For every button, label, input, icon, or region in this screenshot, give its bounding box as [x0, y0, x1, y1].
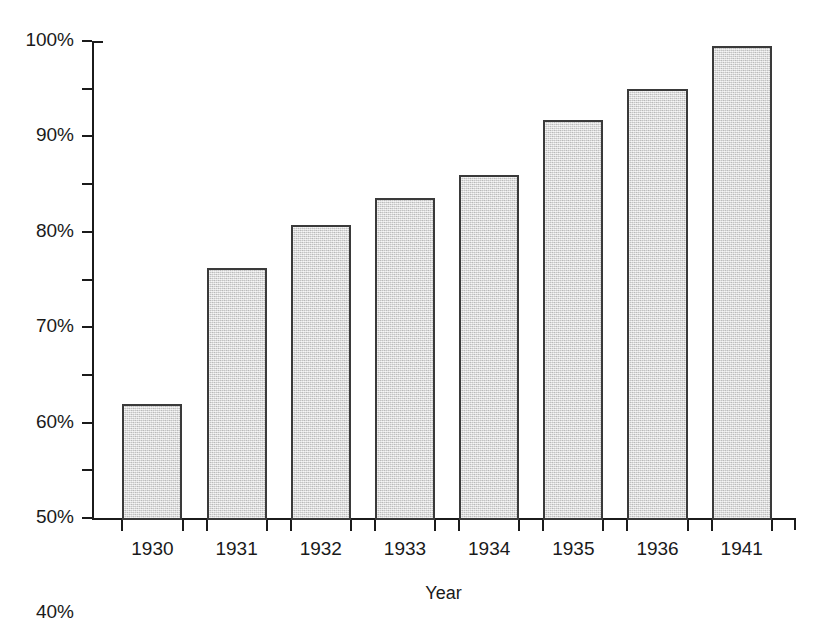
x-axis-tick	[626, 520, 628, 531]
y-axis-tick: 40%	[82, 326, 92, 328]
y-axis-tick: 60%	[82, 231, 92, 233]
x-axis-tick	[771, 520, 773, 531]
y-axis-tick: 100%	[82, 40, 92, 42]
y-axis-tick-label: 90%	[36, 125, 74, 144]
x-axis-tick	[458, 520, 460, 531]
y-axis-tick: 90%	[82, 88, 92, 90]
x-axis-label-1935: 1935	[533, 539, 613, 558]
x-axis-label-1934: 1934	[449, 539, 529, 558]
x-axis-tick	[542, 520, 544, 531]
x-axis-tick	[687, 520, 689, 531]
x-axis-tick	[374, 520, 376, 531]
bar-1934	[459, 175, 519, 520]
x-axis-label-1936: 1936	[618, 539, 698, 558]
y-axis-tick-label: 100%	[25, 30, 74, 49]
x-axis-title: Year	[92, 583, 795, 604]
plot-area: 0%10%20%30%40%50%60%70%80%90%100%1930193…	[92, 41, 795, 519]
y-axis-tick-label: 40%	[36, 602, 74, 621]
x-axis-tick	[290, 520, 292, 531]
y-axis-tick-label: 80%	[36, 221, 74, 240]
x-axis-tick	[121, 520, 123, 531]
x-axis-label-1932: 1932	[281, 539, 361, 558]
x-axis-tick	[711, 520, 713, 531]
bar-1932	[291, 225, 351, 520]
y-axis-tick: 30%	[82, 374, 92, 376]
bar-chart-figure: 0%10%20%30%40%50%60%70%80%90%100%1930193…	[0, 0, 814, 626]
x-axis-tick	[182, 520, 184, 531]
x-axis-tick	[266, 520, 268, 531]
y-axis-tick: 0%	[82, 517, 92, 519]
y-axis-tick: 70%	[82, 183, 92, 185]
x-axis-label-1930: 1930	[112, 539, 192, 558]
bar-1935	[543, 120, 603, 520]
x-axis-tick	[602, 520, 604, 531]
bar-1936	[627, 89, 687, 520]
x-axis-right-cap	[794, 518, 796, 530]
y-axis-tick: 10%	[82, 469, 92, 471]
y-axis-spine	[92, 41, 94, 520]
y-axis-tick-label: 60%	[36, 412, 74, 431]
bar-1941	[712, 46, 772, 520]
x-axis-tick	[518, 520, 520, 531]
x-axis-label-1933: 1933	[365, 539, 445, 558]
y-axis-tick: 50%	[82, 279, 92, 281]
x-axis-label-1941: 1941	[702, 539, 782, 558]
x-axis-tick	[350, 520, 352, 531]
y-axis-top-cap	[92, 41, 103, 43]
x-axis-tick	[206, 520, 208, 531]
x-axis-spine	[92, 518, 796, 520]
bar-1931	[207, 268, 267, 520]
bar-1930	[122, 404, 182, 520]
x-axis-label-1931: 1931	[197, 539, 277, 558]
y-axis-tick: 20%	[82, 422, 92, 424]
y-axis-tick-label: 70%	[36, 316, 74, 335]
x-axis-tick	[434, 520, 436, 531]
y-axis-tick: 80%	[82, 135, 92, 137]
y-axis-tick-label: 50%	[36, 507, 74, 526]
bar-1933	[375, 198, 435, 520]
